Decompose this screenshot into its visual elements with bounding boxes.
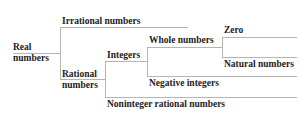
node-rational-numbers: Rational numbers: [62, 69, 98, 91]
node-negative-integers: Negative integers: [149, 78, 219, 89]
node-zero: Zero: [224, 25, 243, 36]
edge-rational-branch: [105, 61, 106, 98]
node-whole-numbers: Whole numbers: [149, 35, 214, 46]
node-noninteger-rational-numbers: Noninteger rational numbers: [107, 99, 225, 110]
node-real-line1: Real: [13, 42, 49, 53]
real-number-classification-diagram: Real numbers Irrational numbers Rational…: [0, 0, 300, 122]
edge-noninteger: [105, 97, 297, 98]
node-real-line2: numbers: [13, 53, 49, 64]
edge-negative: [147, 76, 297, 77]
edge-zero: [222, 37, 297, 38]
edge-irrational: [60, 27, 188, 28]
edge-real-stem: [13, 53, 60, 54]
edge-whole: [147, 47, 222, 48]
edge-real-branch: [60, 27, 61, 80]
edge-integers-branch: [147, 47, 148, 77]
edge-whole-branch: [222, 37, 223, 58]
edge-rational: [60, 79, 105, 80]
edge-integers: [105, 61, 147, 62]
edge-natural: [222, 57, 297, 58]
node-irrational-numbers: Irrational numbers: [62, 16, 140, 27]
node-natural-numbers: Natural numbers: [224, 59, 294, 70]
node-rational-line2: numbers: [62, 80, 98, 91]
node-integers: Integers: [107, 50, 140, 61]
